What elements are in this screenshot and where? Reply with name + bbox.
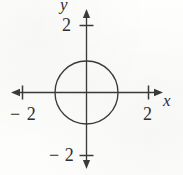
figure-container: y x 2 − 2 − 2 2 — [0, 0, 183, 175]
y-axis-group — [80, 9, 94, 169]
coordinate-plot — [0, 0, 183, 175]
x-axis-label: x — [163, 92, 171, 109]
x-axis-left-arrowhead — [11, 89, 20, 96]
y-tick-label-negative-2: − 2 — [49, 146, 74, 164]
y-axis-top-arrowhead — [83, 9, 90, 18]
y-axis-label: y — [60, 0, 68, 13]
x-tick-label-positive-2: 2 — [143, 105, 152, 123]
x-tick-label-negative-2: − 2 — [10, 105, 37, 123]
x-axis-right-arrowhead — [154, 89, 163, 96]
y-tick-label-positive-2: 2 — [62, 16, 71, 34]
y-axis-bottom-arrowhead — [83, 160, 90, 169]
